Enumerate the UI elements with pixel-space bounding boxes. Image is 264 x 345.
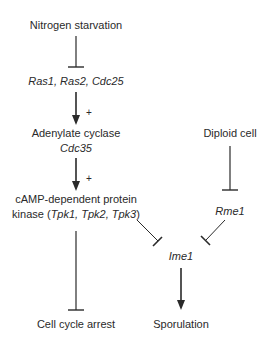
inhibit-diploid-to-rme1 xyxy=(222,146,238,190)
node-nitrogen-starvation: Nitrogen starvation xyxy=(30,19,122,32)
activate-ras-to-adenylate xyxy=(72,92,80,125)
node-diploid-cell: Diploid cell xyxy=(203,127,256,140)
arrowhead-icon xyxy=(72,115,80,125)
activate-ime1-to-sporulation xyxy=(177,268,185,310)
pka-genes: Tpk1, Tpk2, Tpk3 xyxy=(51,208,137,220)
inhibit-pka-to-arrest xyxy=(68,231,84,310)
activate-adenylate-to-pka xyxy=(72,158,80,191)
pka-suffix: ) xyxy=(136,208,140,220)
pathway-edges xyxy=(0,0,264,345)
inhibit-pka-to-ime1 xyxy=(137,220,162,246)
node-adenylate-cyclase: Adenylate cyclase xyxy=(32,127,121,140)
inhibit-rme1-to-ime1 xyxy=(201,220,225,245)
node-cell-cycle-arrest: Cell cycle arrest xyxy=(37,318,115,331)
node-sporulation: Sporulation xyxy=(153,318,209,331)
arrowhead-icon xyxy=(72,181,80,191)
arrowhead-icon xyxy=(177,300,185,310)
node-pka-line1: cAMP-dependent protein xyxy=(15,193,137,206)
node-rme1: Rme1 xyxy=(215,205,244,218)
node-ras: Ras1, Ras2, Cdc25 xyxy=(28,75,123,88)
plus-sign-2: + xyxy=(86,172,92,185)
node-ime1: Ime1 xyxy=(169,250,193,263)
node-cdc35: Cdc35 xyxy=(60,142,92,155)
pka-prefix: kinase ( xyxy=(12,208,51,220)
node-pka-line2: kinase (Tpk1, Tpk2, Tpk3) xyxy=(12,208,140,221)
plus-sign-1: + xyxy=(86,106,92,119)
inhibit-nitrogen-to-ras xyxy=(68,36,84,67)
